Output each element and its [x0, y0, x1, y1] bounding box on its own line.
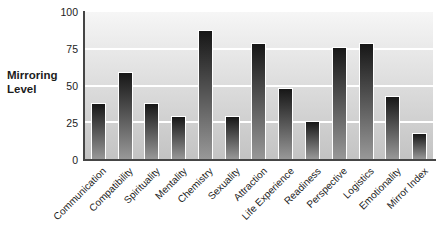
bar-slot [406, 12, 433, 159]
x-axis-baseline [83, 159, 436, 161]
y-tick-label-25: 25 [36, 118, 78, 129]
y-tick-label-50: 50 [36, 81, 78, 92]
y-tick-label-0: 0 [36, 155, 78, 166]
bar-slot [139, 12, 166, 159]
bar [332, 47, 347, 159]
bar [171, 116, 186, 159]
bar-slot [246, 12, 273, 159]
bar [278, 88, 293, 159]
bar [412, 133, 427, 159]
bar [251, 43, 266, 159]
bar-slot [165, 12, 192, 159]
bar [118, 72, 133, 159]
bar-chart: Mirroring Level 0255075100 Communication… [0, 0, 445, 233]
bar [359, 43, 374, 159]
bar [91, 103, 106, 159]
bar-slot [326, 12, 353, 159]
bar-slot [379, 12, 406, 159]
bar-slot [219, 12, 246, 159]
plot-area [85, 12, 433, 159]
bar [144, 103, 159, 159]
category-labels: CommunicationCompatibilitySpiritualityMe… [85, 162, 433, 232]
bar [305, 121, 320, 159]
bar-slot [353, 12, 380, 159]
bar-slot [192, 12, 219, 159]
bar [225, 116, 240, 159]
bars [85, 12, 433, 159]
y-axis-ticks: 0255075100 [36, 12, 78, 160]
bar [198, 30, 213, 159]
y-tick-label-100: 100 [36, 7, 78, 18]
y-tick-label-75: 75 [36, 44, 78, 55]
bar [385, 96, 400, 159]
bar-slot [112, 12, 139, 159]
bar-slot [272, 12, 299, 159]
bar-slot [299, 12, 326, 159]
bar-slot [85, 12, 112, 159]
